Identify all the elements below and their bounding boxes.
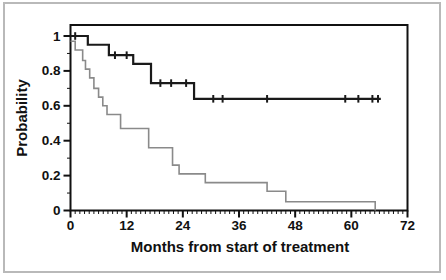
y-tick-label: 0.4 bbox=[42, 133, 61, 148]
x-tick-label: 72 bbox=[400, 218, 415, 233]
y-tick-label: 0 bbox=[53, 203, 61, 218]
y-tick-label: 1 bbox=[53, 29, 61, 44]
x-tick-label: 48 bbox=[288, 218, 304, 233]
y-tick-label: 0.6 bbox=[42, 98, 61, 113]
series-lower-group-survival bbox=[71, 41, 376, 210]
km-survival-figure: 012243648607210.80.60.40.20 Months from … bbox=[0, 0, 446, 280]
y-axis-title: Probability bbox=[13, 79, 30, 157]
x-axis-title: Months from start of treatment bbox=[72, 238, 408, 255]
x-tick-label: 12 bbox=[119, 218, 134, 233]
x-tick-label: 60 bbox=[344, 218, 359, 233]
y-tick-label: 0.8 bbox=[42, 63, 61, 78]
series-upper-group-survival bbox=[71, 32, 381, 102]
x-axis-ticks: 0122436486072 bbox=[67, 211, 415, 234]
x-tick-label: 24 bbox=[175, 218, 191, 233]
y-tick-label: 0.2 bbox=[42, 168, 61, 183]
x-tick-label: 0 bbox=[67, 218, 75, 233]
y-axis-ticks: 10.80.60.40.20 bbox=[42, 29, 71, 219]
x-tick-label: 36 bbox=[231, 218, 247, 233]
